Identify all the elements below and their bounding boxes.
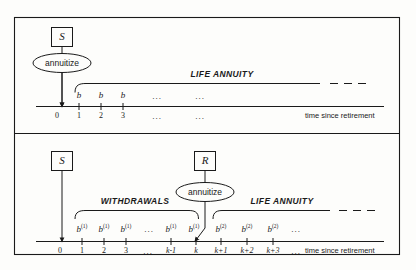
payment-base: b xyxy=(77,90,82,100)
tick-label: 2 xyxy=(102,247,106,255)
tick-ellipsis: ... xyxy=(152,112,162,121)
tick-label: k+2 xyxy=(241,247,254,255)
payment-ellipsis: ... xyxy=(144,225,154,234)
tick-label: 1 xyxy=(80,247,84,255)
tick-label: k-1 xyxy=(166,247,176,255)
payment-superscript: (2) xyxy=(220,223,226,229)
payment-symbol: b(1) xyxy=(189,224,200,234)
payment-symbol: b(1) xyxy=(121,224,132,234)
axis-caption-top: time since retirement xyxy=(305,112,375,120)
payment-base: b xyxy=(99,90,104,100)
payment-superscript: (1) xyxy=(193,223,199,229)
payment-symbol: b xyxy=(77,91,82,100)
payment-superscript: (1) xyxy=(81,223,87,229)
payment-symbol: b(2) xyxy=(216,224,227,234)
tick-label: 2 xyxy=(99,112,103,120)
annuitize-label-top: annuitize xyxy=(45,59,79,68)
reserve-box-label: R xyxy=(202,155,209,166)
source-box-label-top: S xyxy=(59,31,65,42)
axis-caption-bottom: time since retirement xyxy=(305,247,375,255)
figure-canvas: S annuitize LIFE ANNUITY b b b ... ... 0… xyxy=(0,0,416,270)
payment-superscript: (1) xyxy=(103,223,109,229)
annuitize-label-bottom: annuitize xyxy=(188,188,222,197)
payment-superscript: (2) xyxy=(272,223,278,229)
payment-ellipsis: ... xyxy=(152,92,162,101)
payment-symbol: b(1) xyxy=(77,224,88,234)
payment-symbol: b(2) xyxy=(268,224,279,234)
source-box-label-bottom: S xyxy=(59,155,65,166)
tick-label: k+1 xyxy=(215,247,228,255)
tick-label: 3 xyxy=(124,247,128,255)
tick-label: 0 xyxy=(58,247,62,255)
tick-label: 0 xyxy=(55,112,59,120)
payment-symbol: b(2) xyxy=(242,224,253,234)
tick-ellipsis: ... xyxy=(195,112,205,121)
tick-ellipsis: ... xyxy=(143,247,153,256)
payment-superscript: (1) xyxy=(170,223,176,229)
payment-symbol: b xyxy=(121,91,126,100)
tick-label: k xyxy=(194,247,198,255)
tick-ellipsis: ... xyxy=(291,247,301,256)
payment-symbol: b(1) xyxy=(166,224,177,234)
payment-ellipsis: ... xyxy=(195,92,205,101)
payment-superscript: (1) xyxy=(125,223,131,229)
payment-ellipsis: ... xyxy=(291,225,301,234)
life-annuity-bracket-label-bottom: LIFE ANNUITY xyxy=(250,197,313,206)
tick-label: k+3 xyxy=(267,247,280,255)
tick-label: 3 xyxy=(121,112,125,120)
payment-symbol: b(1) xyxy=(99,224,110,234)
withdrawals-bracket-label: WITHDRAWALS xyxy=(101,197,170,206)
tick-label: 1 xyxy=(77,112,81,120)
life-annuity-bracket-label-top: LIFE ANNUITY xyxy=(190,70,253,79)
payment-symbol: b xyxy=(99,91,104,100)
payment-superscript: (2) xyxy=(246,223,252,229)
payment-base: b xyxy=(121,90,126,100)
